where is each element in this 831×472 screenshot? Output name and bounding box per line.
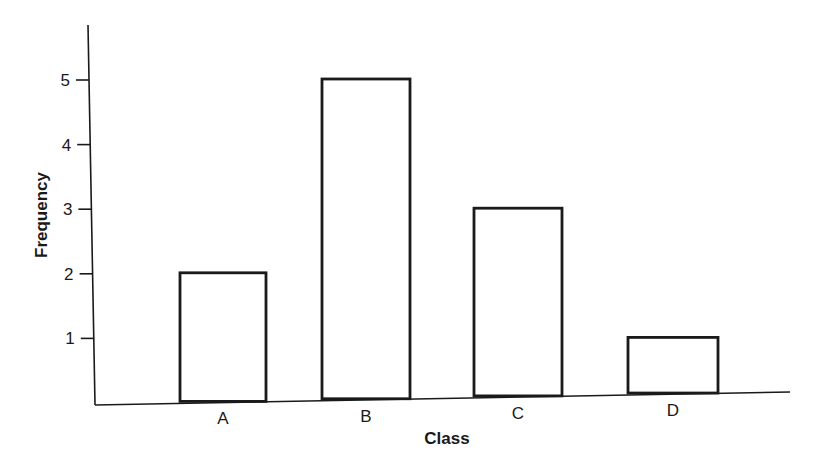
x-category-label: A xyxy=(217,409,229,428)
y-axis-ticks: 12345 xyxy=(61,71,94,348)
y-tick-label: 5 xyxy=(61,71,70,90)
x-category-label: C xyxy=(512,404,524,423)
y-tick-label: 4 xyxy=(62,136,71,155)
y-axis-line xyxy=(88,25,95,405)
y-tick-label: 3 xyxy=(63,200,72,219)
bar-chart: 12345 ABCD Frequency Class xyxy=(0,0,831,472)
x-axis-category-labels: ABCD xyxy=(217,401,679,428)
bar-b xyxy=(322,79,410,399)
x-category-label: D xyxy=(667,401,679,420)
bars xyxy=(180,79,718,401)
y-tick-label: 2 xyxy=(64,265,73,284)
bar-a xyxy=(180,273,266,402)
x-axis-title: Class xyxy=(424,429,469,448)
bar-d xyxy=(628,337,718,393)
y-tick-label: 1 xyxy=(65,329,74,348)
bar-c xyxy=(474,208,562,396)
x-category-label: B xyxy=(360,407,371,426)
y-axis-title: Frequency xyxy=(32,171,51,258)
